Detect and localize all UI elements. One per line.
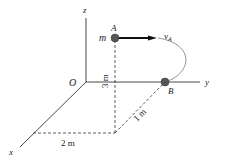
y-offset-dimension-label: 1 m [131,107,148,124]
velocity-label: vA [164,31,172,42]
point-a [111,34,119,42]
x-axis [20,82,86,147]
point-a-label: A [110,23,117,33]
y-axis-label: y [204,77,209,87]
point-b-label: B [168,86,174,96]
z-axis-label: z [82,5,87,15]
x-axis-label: x [8,147,13,157]
point-b [161,78,169,86]
height-dimension-label: 3 m [100,74,110,88]
particle-path-diagram: z y x O A m B vA 3 m 2 m 1 m [0,0,225,161]
origin-label: O [69,77,76,88]
x-offset-dimension-label: 2 m [61,138,75,148]
mass-label: m [99,32,106,43]
velocity-subscript: A [167,36,172,42]
arrow-head-icon [148,36,157,41]
trajectory-curve [158,38,186,82]
